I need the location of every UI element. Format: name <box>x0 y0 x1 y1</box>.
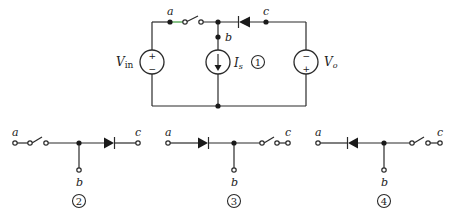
terminal-c <box>438 141 442 145</box>
terminal-b <box>382 168 386 172</box>
main-circuit: a c b + − Vin Is 1 − + Vo <box>116 5 338 109</box>
sub-circuit-2: a c b 2 <box>12 126 141 208</box>
svg-text:1: 1 <box>255 57 261 68</box>
label-a: a <box>315 126 322 139</box>
terminal-a <box>166 141 170 145</box>
node-c <box>263 19 268 24</box>
switch-icon <box>414 137 424 143</box>
terminal-c <box>286 141 290 145</box>
label-b: b <box>76 176 83 189</box>
switch-icon <box>264 137 274 143</box>
minus-sign: − <box>303 51 311 61</box>
label-a: a <box>12 126 19 139</box>
switch-icon <box>183 16 203 24</box>
terminal-a <box>316 141 320 145</box>
switch-icon <box>32 137 42 143</box>
node-a-label: a <box>167 5 174 18</box>
diode-icon <box>239 16 251 28</box>
vin-label: Vin <box>116 55 134 70</box>
circuit-number-badge: 3 <box>228 195 241 208</box>
junction-node <box>381 140 386 145</box>
plus-sign: + <box>303 64 311 74</box>
terminal-a <box>13 141 17 145</box>
terminal-b <box>232 168 236 172</box>
node-b-label: b <box>225 31 232 44</box>
node-b <box>215 34 220 39</box>
plus-sign: + <box>149 51 157 61</box>
label-b: b <box>231 176 238 189</box>
label-b: b <box>381 176 388 189</box>
label-c: c <box>285 126 291 139</box>
label-c: c <box>437 126 443 139</box>
minus-sign: − <box>149 64 157 74</box>
node-a <box>167 19 172 24</box>
circuit-diagram: a c b + − Vin Is 1 − + Vo <box>0 0 454 218</box>
diode-icon <box>198 137 209 149</box>
svg-text:2: 2 <box>76 196 82 207</box>
node-c-label: c <box>263 5 269 18</box>
current-source <box>206 50 230 74</box>
label-a: a <box>165 126 172 139</box>
is-label: Is <box>233 56 243 71</box>
junction-node <box>231 140 236 145</box>
diode-icon <box>104 137 115 149</box>
junction-node <box>76 140 81 145</box>
circuit-number-badge: 1 <box>252 56 265 69</box>
circuit-number-badge: 2 <box>73 195 86 208</box>
circuit-number-badge: 4 <box>378 195 391 208</box>
vo-voltage-source: − + <box>294 50 318 74</box>
ground-node <box>215 103 220 108</box>
sub-circuit-4: a c b 4 <box>315 126 443 208</box>
svg-text:4: 4 <box>381 196 387 207</box>
sub-circuit-3: a c b 3 <box>165 126 291 208</box>
terminal-c <box>136 141 140 145</box>
diode-icon <box>348 137 359 149</box>
vo-label: Vo <box>324 55 338 70</box>
terminal-b <box>77 168 81 172</box>
svg-text:3: 3 <box>231 196 237 207</box>
junction-node <box>215 19 220 24</box>
label-c: c <box>135 126 141 139</box>
vin-voltage-source: + − <box>140 50 164 74</box>
